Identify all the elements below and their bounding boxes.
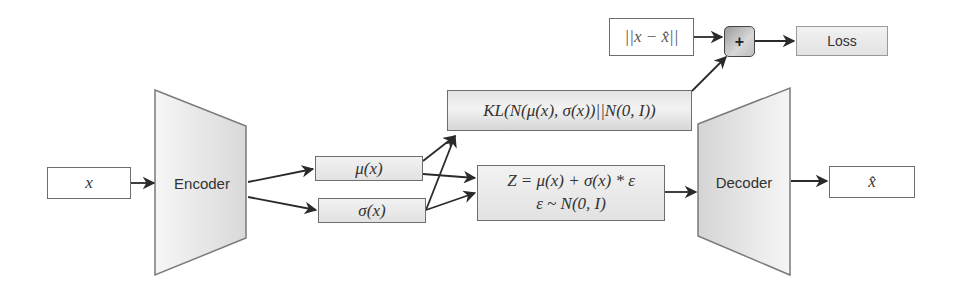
- sigma-label: σ(x): [358, 201, 385, 221]
- input-x-box: x: [47, 167, 131, 199]
- edge-kl-sum: [692, 57, 726, 91]
- latent-z-box: Z = μ(x) + σ(x) * ε ε ~ N(0, I): [477, 165, 665, 221]
- mu-box: μ(x): [315, 156, 423, 181]
- loss-label: Loss: [827, 33, 857, 49]
- z-equation: Z = μ(x) + σ(x) * ε: [507, 170, 635, 193]
- output-xhat-box: x̂: [829, 166, 915, 198]
- kl-divergence-box: KL(N(μ(x), σ(x))||N(0, I)): [447, 90, 692, 131]
- edge-encoder-mu: [248, 169, 313, 182]
- plus-icon: +: [735, 33, 744, 51]
- input-x-label: x: [85, 173, 93, 193]
- reconstruction-error-label: ||x − x̂||: [625, 27, 679, 47]
- reconstruction-error-box: ||x − x̂||: [609, 18, 694, 56]
- kl-label: KL(N(μ(x), σ(x))||N(0, I)): [483, 101, 656, 121]
- edge-encoder-sigma: [248, 197, 316, 210]
- epsilon-distribution: ε ~ N(0, I): [536, 193, 606, 216]
- sigma-box: σ(x): [318, 198, 426, 223]
- encoder-label: Encoder: [160, 172, 244, 194]
- mu-label: μ(x): [355, 159, 382, 179]
- sum-node: +: [724, 26, 755, 57]
- edge-sigma-z: [426, 193, 475, 210]
- loss-box: Loss: [796, 26, 888, 56]
- output-xhat-label: x̂: [868, 172, 876, 192]
- edge-mu-z: [423, 174, 475, 178]
- decoder-label: Decoder: [700, 171, 788, 193]
